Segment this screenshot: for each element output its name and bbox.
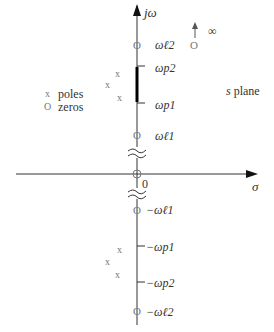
upper-wl2-label: ωℓ2 [155, 38, 174, 52]
zero-upper-l2-icon: O [133, 39, 141, 51]
upper-wp1-label: ωp1 [155, 98, 175, 112]
lower-wp2-label: −ωp2 [146, 276, 175, 290]
pole-lower-2-icon: x [105, 256, 110, 267]
lower-wp1-label: −ωp1 [146, 240, 175, 254]
legend-poles-label: poles [58, 87, 84, 101]
sigma-axis-label: σ [252, 179, 259, 194]
lower-wl1-label: −ωℓ1 [146, 203, 174, 217]
legend-zero-icon: O [44, 101, 51, 112]
infinity-arrowhead-icon [192, 22, 198, 29]
zero-at-infinity-icon: O [190, 39, 198, 51]
upper-wp2-label: ωp2 [155, 61, 175, 75]
real-axis-arrowhead-icon [246, 170, 258, 178]
pole-upper-3-icon: x [117, 92, 122, 103]
pole-upper-1-icon: x [115, 68, 120, 79]
zero-upper-l1-icon: O [133, 129, 141, 141]
infinity-label: ∞ [208, 24, 217, 38]
pole-lower-3-icon: x [115, 269, 120, 280]
legend-zeros-label: zeros [58, 100, 84, 114]
jw-axis-label: jω [142, 5, 157, 20]
lower-wl2-label: −ωℓ2 [146, 305, 174, 319]
zero-lower-l2-icon: O [133, 305, 141, 317]
s-plane-diagram: jω σ 0 s plane O ∞ x poles O zeros O ωℓ2… [0, 0, 274, 332]
legend-pole-icon: x [45, 88, 50, 99]
s-plane-label: s plane [226, 84, 260, 98]
pole-upper-2-icon: x [105, 79, 110, 90]
upper-wl1-label: ωℓ1 [155, 129, 174, 143]
axis-break-lower-icon [128, 188, 146, 199]
pole-lower-1-icon: x [117, 244, 122, 255]
imaginary-axis-arrowhead-icon [133, 4, 141, 16]
zero-lower-l1-icon: O [133, 204, 141, 216]
axis-break-upper-icon [128, 147, 146, 158]
